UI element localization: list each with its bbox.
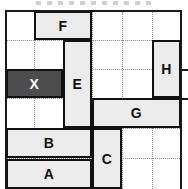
scan-artifact — [36, 1, 152, 5]
puzzle-block-label: B — [44, 135, 55, 151]
puzzle-block-label: X — [30, 76, 40, 92]
puzzle-block-label: G — [131, 105, 142, 121]
puzzle-block-a[interactable]: A — [6, 159, 92, 189]
exit-tick-upper — [182, 69, 188, 71]
puzzle-block-e[interactable]: E — [63, 40, 92, 128]
exit-tick-lower — [182, 98, 188, 100]
puzzle-block-b[interactable]: B — [6, 128, 92, 158]
puzzle-block-label: C — [102, 151, 113, 167]
puzzle-block-f[interactable]: F — [34, 11, 92, 40]
puzzle-block-x[interactable]: X — [6, 69, 63, 98]
puzzle-block-label: A — [44, 166, 55, 182]
puzzle-block-label: H — [161, 61, 172, 77]
puzzle-board-frame: FEHXGBCA — [5, 10, 182, 189]
puzzle-block-c[interactable]: C — [92, 128, 122, 189]
puzzle-block-h[interactable]: H — [152, 40, 181, 98]
puzzle-block-label: F — [58, 18, 67, 34]
puzzle-block-g[interactable]: G — [92, 98, 181, 128]
puzzle-block-label: E — [73, 76, 83, 92]
puzzle-diagram-stage: FEHXGBCA — [0, 0, 188, 189]
